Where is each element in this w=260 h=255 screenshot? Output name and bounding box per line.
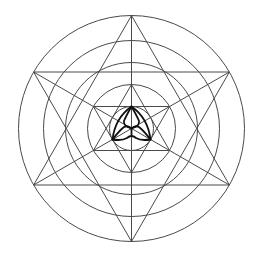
diagram-canvas: Sacred geometry: concentric circles, nes… (0, 0, 260, 255)
sacred-geometry-diagram (0, 0, 260, 255)
